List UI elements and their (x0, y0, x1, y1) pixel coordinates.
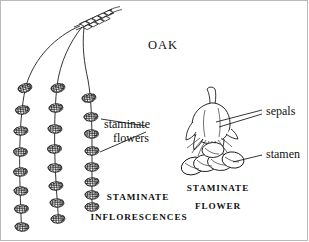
staminate-flowers-label-line2: flowers (113, 132, 149, 146)
staminate-flower-label-line1: STAMINATE (163, 181, 273, 196)
sepals-label: sepals (266, 105, 295, 119)
right-catkin (81, 28, 99, 211)
staminate-flower-label-line2: FLOWER (163, 199, 273, 214)
page-title: OAK (148, 38, 178, 53)
staminate-flower-detail (179, 87, 262, 178)
flower-cluster (13, 82, 32, 232)
flower-cluster (47, 83, 65, 224)
twig-tip (74, 7, 122, 30)
flower-pedicel (207, 87, 216, 104)
left-catkin (13, 26, 80, 232)
stamen-anthers (179, 142, 245, 178)
staminate-flowers-label-line1: staminate (104, 118, 150, 132)
middle-catkin (47, 27, 82, 224)
stamen-label: stamen (266, 148, 300, 162)
